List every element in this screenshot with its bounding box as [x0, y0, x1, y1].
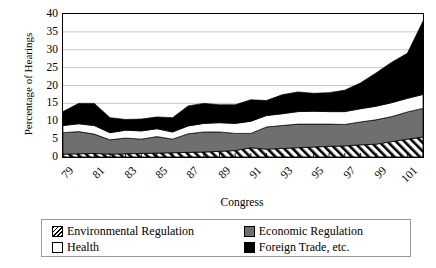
stacked-area-chart: Percentage of Hearings 4035302520151050 … [0, 0, 436, 268]
legend-swatch-white-icon [52, 242, 63, 253]
x-tick-label: 81 [84, 164, 107, 187]
x-tick-label: 89 [209, 164, 232, 187]
y-tick-label: 30 [36, 44, 58, 54]
x-tick-label: 93 [272, 164, 295, 187]
legend-entry-environmental-regulation: Environmental Regulation [52, 225, 244, 238]
legend-label: Environmental Regulation [67, 225, 194, 238]
legend-entry-foreign-trade: Foreign Trade, etc. [244, 241, 410, 254]
x-axis-title: Congress [62, 196, 422, 208]
legend-entry-economic-regulation: Economic Regulation [244, 225, 410, 238]
x-tick-label: 87 [178, 164, 201, 187]
legend-label: Health [67, 241, 99, 254]
y-tick-label: 15 [36, 97, 58, 107]
series-areas [63, 21, 423, 157]
y-tick-label: 5 [36, 133, 58, 143]
legend-row-2: Health Foreign Trade, etc. [52, 239, 410, 255]
legend-swatch-hatch-icon [52, 226, 63, 237]
x-tick-label: 83 [115, 164, 138, 187]
y-tick-label: 25 [36, 62, 58, 72]
x-tick-label: 97 [335, 164, 358, 187]
y-tick-label: 20 [36, 80, 58, 90]
y-tick-label: 35 [36, 26, 58, 36]
y-tick-label: 10 [36, 115, 58, 125]
y-tick-label: 40 [36, 8, 58, 18]
chart-legend: Environmental Regulation Economic Regula… [41, 219, 411, 257]
x-tick-label: 91 [241, 164, 264, 187]
legend-swatch-gray-icon [244, 226, 255, 237]
plot-area [62, 13, 424, 158]
legend-swatch-black-icon [244, 242, 255, 253]
y-axis-tick-labels: 4035302520151050 [34, 0, 58, 168]
legend-label: Foreign Trade, etc. [259, 241, 350, 254]
y-tick-label: 0 [36, 151, 58, 161]
x-tick-label: 101 [397, 164, 420, 187]
legend-row-1: Environmental Regulation Economic Regula… [52, 223, 410, 239]
legend-label: Economic Regulation [259, 225, 363, 238]
plot-svg [63, 14, 423, 157]
x-tick-label: 95 [303, 164, 326, 187]
x-tick-label: 99 [366, 164, 389, 187]
x-tick-label: 85 [147, 164, 170, 187]
y-axis-title: Percentage of Hearings [22, 9, 34, 159]
x-axis-tick-labels: 7981838587899193959799101 [62, 158, 422, 194]
legend-entry-health: Health [52, 241, 244, 254]
